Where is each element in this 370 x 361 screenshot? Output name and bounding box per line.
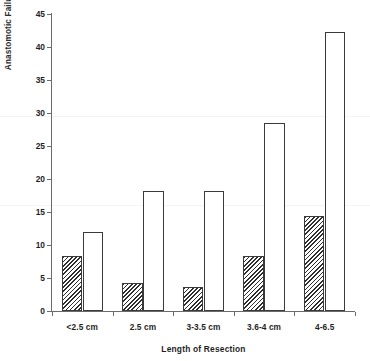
y-tick-mark	[47, 146, 51, 147]
y-tick-label: 10	[17, 241, 45, 250]
bar-group	[183, 14, 225, 311]
bar-group	[62, 14, 104, 311]
y-tick-mark	[47, 179, 51, 180]
y-tick-label: 40	[17, 43, 45, 52]
bar-chart: Anastomotic Failure Rate 051015202530354…	[0, 0, 370, 361]
x-tick-mark	[173, 312, 174, 316]
y-tick-label: 45	[17, 10, 45, 19]
bar-hatched	[183, 287, 204, 311]
y-tick-label: 0	[17, 307, 45, 316]
bar-hatched	[243, 256, 264, 311]
bar-open	[204, 191, 225, 311]
y-tick-mark	[47, 245, 51, 246]
y-tick-mark	[47, 311, 51, 312]
y-tick-mark	[47, 47, 51, 48]
y-tick-mark	[47, 14, 51, 15]
x-tick-mark	[234, 312, 235, 316]
x-tick-mark	[294, 312, 295, 316]
y-tick-label: 20	[17, 175, 45, 184]
bar-open	[83, 232, 104, 311]
y-tick-label: 25	[17, 142, 45, 151]
y-tick-mark	[47, 113, 51, 114]
bar-group	[122, 14, 164, 311]
bar-hatched	[122, 283, 143, 311]
x-tick-label: 4-6.5	[288, 322, 362, 332]
x-tick-mark	[355, 312, 356, 316]
y-tick-label: 30	[17, 109, 45, 118]
y-axis-title: Anastomotic Failure Rate	[2, 0, 16, 104]
y-tick-label: 5	[17, 274, 45, 283]
x-tick-mark	[52, 312, 53, 316]
y-tick-mark	[47, 278, 51, 279]
bar-open	[143, 191, 164, 311]
y-tick-label: 35	[17, 76, 45, 85]
bar-open	[264, 123, 285, 311]
plot-area	[52, 14, 355, 311]
x-tick-mark	[113, 312, 114, 316]
bar-hatched	[304, 216, 325, 311]
x-axis-line	[51, 311, 355, 312]
y-tick-label: 15	[17, 208, 45, 217]
x-axis-title: Length of Resection	[52, 344, 355, 354]
bar-hatched	[62, 256, 83, 311]
y-tick-mark	[47, 80, 51, 81]
bar-group	[304, 14, 346, 311]
y-tick-mark	[47, 212, 51, 213]
bar-group	[243, 14, 285, 311]
bar-open	[325, 32, 346, 311]
